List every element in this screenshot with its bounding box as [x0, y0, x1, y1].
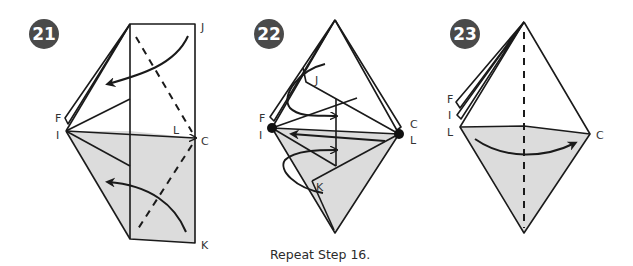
- step-number: 23: [453, 24, 477, 44]
- step-22: 22 F I J C L K Repeat Step 16.: [254, 19, 418, 262]
- label-C: C: [596, 129, 604, 142]
- step-badge: 23: [450, 19, 480, 49]
- label-K: K: [316, 181, 324, 194]
- label-L: L: [410, 134, 417, 147]
- point-L-dot: [394, 129, 404, 139]
- step-number: 22: [257, 24, 281, 44]
- label-F: F: [447, 93, 453, 106]
- step-21: 21 F I J L C K: [29, 19, 209, 252]
- label-I: I: [56, 129, 59, 142]
- step-caption: Repeat Step 16.: [270, 247, 370, 262]
- label-J: J: [200, 21, 204, 34]
- point-I-dot: [267, 123, 277, 133]
- label-I: I: [259, 129, 262, 142]
- label-J: J: [314, 74, 318, 87]
- label-F: F: [259, 112, 265, 125]
- label-F: F: [55, 112, 61, 125]
- step-23: 23 F I L C: [447, 19, 604, 233]
- step-badge: 22: [254, 19, 284, 49]
- step-number: 21: [32, 24, 56, 44]
- label-I: I: [448, 109, 451, 122]
- origami-diagram: 21 F I J L C K 22: [0, 0, 633, 266]
- label-L: L: [447, 126, 454, 139]
- label-C: C: [410, 118, 418, 131]
- step-badge: 21: [29, 19, 59, 49]
- label-L: L: [173, 124, 180, 137]
- label-K: K: [201, 239, 209, 252]
- label-C: C: [201, 135, 209, 148]
